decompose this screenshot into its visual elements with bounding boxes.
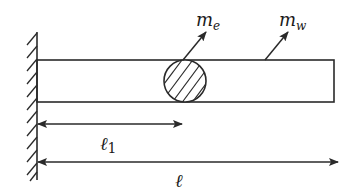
wall-hatching bbox=[27, 33, 37, 181]
eccentric-mass-label: me bbox=[196, 9, 220, 33]
cantilever-diagram: me mw ℓ1 ℓ bbox=[0, 0, 358, 191]
eccentric-mass-arrow bbox=[183, 32, 206, 60]
beam-mass-arrow bbox=[265, 32, 288, 60]
fixed-wall-support bbox=[27, 32, 37, 181]
beam-length-label: ℓ bbox=[175, 170, 183, 191]
mass-position-label: ℓ1 bbox=[100, 133, 116, 156]
eccentric-mass bbox=[150, 55, 214, 108]
beam-mass-label: mw bbox=[279, 9, 307, 33]
